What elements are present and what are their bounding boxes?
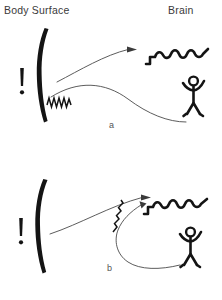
brain-icon-b <box>144 199 207 214</box>
figure-canvas <box>0 0 222 300</box>
pain-marker-a <box>20 68 24 94</box>
panel-label-a: a <box>109 120 114 130</box>
body-surface-curve-a <box>37 28 49 123</box>
zigzag-signal-b <box>113 200 123 232</box>
panel-b <box>19 179 207 274</box>
person-icon-a <box>183 77 204 116</box>
body-surface-curve-b <box>35 179 47 274</box>
surface-to-brain-arrow-a <box>57 47 137 82</box>
pain-pathway-figure: Body Surface Brain <box>0 0 222 300</box>
surface-to-brain-arrow-b <box>50 195 151 234</box>
zigzag-signal-a <box>47 98 71 107</box>
brain-icon-a <box>146 49 208 64</box>
panel-label-b: b <box>107 263 112 273</box>
panel-a <box>20 28 208 123</box>
person-icon-b <box>180 228 201 267</box>
pain-marker-b <box>19 218 23 244</box>
